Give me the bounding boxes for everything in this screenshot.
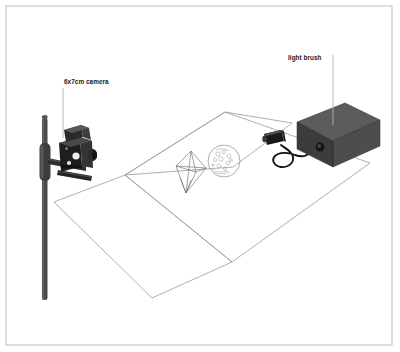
label-light-brush: light brush xyxy=(288,54,322,62)
wand-tip xyxy=(262,136,266,142)
tripod-post-cap xyxy=(42,115,48,119)
camera-lens-front xyxy=(92,150,97,159)
light-brush-setup-diagram: 6x7cm camera light brush xyxy=(0,0,400,352)
tripod-clamp-highlight xyxy=(41,145,44,178)
label-camera: 6x7cm camera xyxy=(64,78,109,85)
box-port-highlight xyxy=(317,144,321,148)
diagram-canvas: 6x7cm camera light brush xyxy=(0,0,400,352)
camera-knob-highlight xyxy=(67,161,71,165)
camera-button-detail xyxy=(65,147,68,150)
camera-lens-highlight xyxy=(72,152,79,159)
